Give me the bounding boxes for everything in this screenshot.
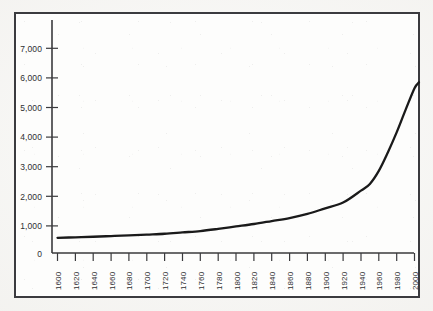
- y-tick-label: 0: [6, 249, 42, 259]
- x-tick-label: 1640: [90, 272, 99, 290]
- x-tick-label: 1960: [375, 272, 384, 290]
- x-tick-label: 1740: [179, 272, 188, 290]
- y-tick-label: 3,000: [6, 162, 42, 172]
- y-tick-label: 1,000: [6, 221, 42, 231]
- x-tick-label: 1700: [143, 272, 152, 290]
- x-tick-label: 1660: [108, 272, 117, 290]
- x-tick-label: 1820: [250, 272, 259, 290]
- y-tick-label: 2,000: [6, 192, 42, 202]
- x-tick-label: 1920: [340, 272, 349, 290]
- x-tick-label: 1840: [268, 272, 277, 290]
- x-tick-label: 1680: [125, 272, 134, 290]
- x-tick-label: 1620: [72, 272, 81, 290]
- x-tick-label: 1940: [358, 272, 367, 290]
- x-tick-label: 1720: [161, 272, 170, 290]
- x-tick-label: 1600: [54, 272, 63, 290]
- y-tick-label: 6,000: [6, 73, 42, 83]
- x-tick-label: 1900: [322, 272, 331, 290]
- x-tick-label: 2000: [411, 272, 420, 290]
- y-tick-label: 4,000: [6, 132, 42, 142]
- x-tick-label: 1880: [304, 272, 313, 290]
- x-tick-label: 1780: [215, 272, 224, 290]
- x-tick-label: 1800: [233, 272, 242, 290]
- x-tick-label: 1980: [393, 272, 402, 290]
- x-tick-label: 1860: [286, 272, 295, 290]
- x-tick-label: 1760: [197, 272, 206, 290]
- y-tick-label: 7,000: [6, 44, 42, 54]
- chart-frame: [14, 12, 420, 298]
- y-tick-label: 5,000: [6, 103, 42, 113]
